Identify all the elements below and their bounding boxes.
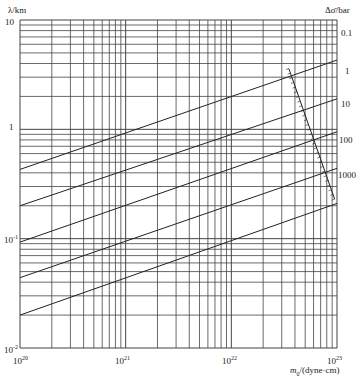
y-axis-label: λ/km xyxy=(8,6,26,15)
hatch-tick xyxy=(302,115,305,116)
hatched-boundary-line xyxy=(289,69,335,200)
series-label-0.1: 0.1 xyxy=(341,29,352,38)
y-tick-10: 10 xyxy=(5,18,14,27)
hatch-tick xyxy=(291,83,294,84)
right-axis-label: Δσ̄/bar xyxy=(325,6,350,15)
series-line-100 xyxy=(20,168,337,277)
hatch-tick xyxy=(297,101,300,102)
hatch-tick xyxy=(327,185,330,186)
x-tick-1e22: 1022 xyxy=(222,355,237,366)
hatch-tick xyxy=(317,157,320,158)
hatch-tick xyxy=(330,194,333,195)
series-label-1: 1 xyxy=(345,67,350,76)
x-tick-1e20: 1020 xyxy=(13,355,28,366)
series-label-10: 10 xyxy=(341,100,350,109)
y-tick-0.01: 10-2 xyxy=(4,344,18,355)
y-tick-1: 1 xyxy=(9,123,14,132)
series-label-100: 100 xyxy=(339,136,353,145)
chart-canvas xyxy=(0,0,362,379)
x-axis-label: m0/(dyne·cm) xyxy=(290,366,339,377)
hatch-tick xyxy=(306,124,309,125)
hatch-tick xyxy=(314,148,317,149)
hatch-tick xyxy=(288,73,291,74)
hatch-tick xyxy=(289,78,292,79)
hatch-tick xyxy=(329,190,332,191)
hatch-tick xyxy=(286,69,289,70)
series-label-1000: 1000 xyxy=(338,171,356,180)
y-tick-0.1: 10-1 xyxy=(4,234,18,245)
x-tick-1e21: 1021 xyxy=(115,355,130,366)
series-line-1000 xyxy=(20,203,337,315)
hatch-tick xyxy=(322,171,325,172)
hatch-tick xyxy=(311,138,314,139)
series-line-10 xyxy=(20,132,337,242)
hatch-tick xyxy=(299,106,302,107)
hatch-tick xyxy=(324,176,327,177)
